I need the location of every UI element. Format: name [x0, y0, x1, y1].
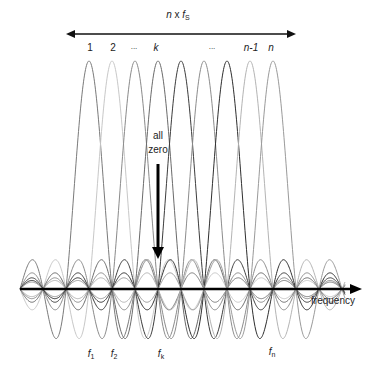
f-sub: k	[161, 353, 165, 360]
freq-label-fk: fk	[158, 349, 164, 360]
bandwidth-arrow	[66, 30, 296, 38]
times-symbol: x	[175, 9, 180, 20]
frequency-axis	[20, 284, 362, 294]
f-sub: 2	[113, 353, 117, 360]
s-subscript: S	[185, 14, 190, 21]
freq-label-f2: f2	[111, 349, 118, 360]
freq-label-f1: f1	[88, 349, 95, 360]
index-label-k: k	[154, 43, 159, 53]
f-sub: 1	[90, 353, 94, 360]
index-label-n-minus-1: n-1	[244, 43, 258, 53]
index-label-2: 2	[110, 43, 116, 53]
index-label-ellipsis-2: ...	[209, 43, 216, 51]
bandwidth-label: n x fS	[166, 10, 190, 21]
frequency-axis-label: frequency	[311, 296, 355, 306]
subcarrier-curves	[20, 61, 345, 339]
all-zero-annotation-line2: zero	[148, 145, 167, 155]
spectrum-plot	[0, 0, 381, 377]
index-label-ellipsis-1: ...	[131, 43, 138, 51]
ofdm-spectrum-diagram: n x fS 1 2 ... k ... n-1 n all zero freq…	[0, 0, 381, 377]
freq-label-fn: fn	[269, 347, 276, 358]
index-label-1: 1	[87, 43, 93, 53]
f-sub: n	[271, 351, 275, 358]
n-symbol: n	[166, 9, 172, 20]
index-label-n: n	[268, 43, 274, 53]
all-zero-annotation-line1: all	[153, 131, 163, 141]
